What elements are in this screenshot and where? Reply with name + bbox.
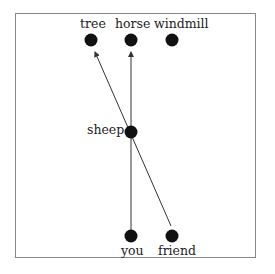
node-friend	[166, 230, 179, 243]
label-sheep: sheep	[87, 124, 124, 137]
node-windmill	[166, 34, 179, 47]
label-horse: horse	[115, 18, 150, 31]
diagram-canvas	[0, 0, 275, 274]
label-windmill: windmill	[154, 18, 209, 31]
edge-friend-to-tree	[95, 52, 171, 226]
label-tree: tree	[80, 18, 106, 31]
node-sheep	[125, 126, 138, 139]
label-friend: friend	[158, 245, 196, 258]
node-horse	[125, 34, 138, 47]
label-you: you	[121, 245, 144, 258]
node-tree	[85, 34, 98, 47]
node-you	[125, 230, 138, 243]
